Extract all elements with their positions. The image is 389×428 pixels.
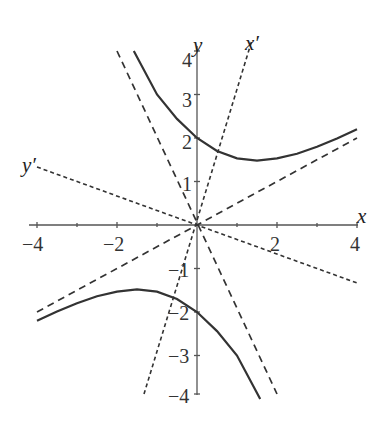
y-tick-label: 4 <box>182 49 192 71</box>
y-tick-label: 3 <box>182 89 192 111</box>
x-tick-label: 2 <box>270 233 280 255</box>
x-axis-label: x <box>356 204 367 228</box>
x-prime-label: x′ <box>244 31 259 55</box>
y-tick-labels: 4 3 2 1 −1 −2 −3 −4 <box>168 49 192 407</box>
y-tick-label: −4 <box>168 385 189 407</box>
hyperbola-plot: −4 −2 2 4 4 3 2 1 −1 −2 −3 −4 x y x′ y′ <box>0 0 389 428</box>
y-axis-label: y <box>191 33 203 57</box>
x-tick-label: −2 <box>103 233 124 255</box>
y-tick-label: 1 <box>182 173 192 195</box>
hyperbola-lower-branch <box>37 289 260 399</box>
y-tick-label: −2 <box>168 302 189 324</box>
hyperbola-upper-branch <box>134 51 357 161</box>
axes <box>29 46 358 395</box>
x-tick-label: −4 <box>22 233 43 255</box>
y-tick-label: −1 <box>168 259 189 281</box>
x-tick-labels: −4 −2 2 4 <box>22 233 360 255</box>
x-prime-axis <box>144 40 252 394</box>
y-tick-label: −3 <box>168 345 189 367</box>
y-tick-label: 2 <box>182 131 192 153</box>
y-prime-label: y′ <box>20 153 36 177</box>
x-tick-label: 4 <box>350 233 360 255</box>
